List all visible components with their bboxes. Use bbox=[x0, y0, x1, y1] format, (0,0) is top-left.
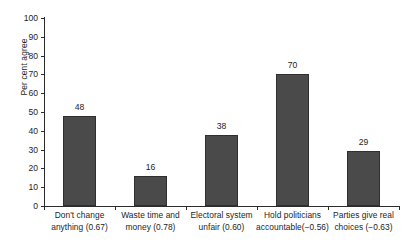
y-axis-tick-label: 50 bbox=[14, 108, 38, 117]
y-axis-tick-label: 0 bbox=[14, 202, 38, 211]
x-axis-category-label-line: Hold politicians bbox=[255, 210, 330, 222]
y-axis-tick-label: 60 bbox=[14, 89, 38, 98]
x-axis-category-label-line: Don't change bbox=[42, 210, 117, 222]
y-axis-tick-label: 10 bbox=[14, 183, 38, 192]
bar bbox=[134, 176, 167, 206]
x-axis-category-label-line: choices (−0.63) bbox=[326, 222, 401, 234]
bar bbox=[205, 135, 238, 206]
y-axis-tick-label: 90 bbox=[14, 33, 38, 42]
bar bbox=[276, 74, 309, 206]
y-axis-tick-mark bbox=[41, 131, 45, 132]
x-axis-category-label: Don't changeanything (0.67) bbox=[42, 210, 117, 233]
y-axis-tick-mark bbox=[41, 112, 45, 113]
bar-value-label: 16 bbox=[131, 163, 171, 172]
x-axis-category-label: Parties give realchoices (−0.63) bbox=[326, 210, 401, 233]
y-axis-tick-label: 70 bbox=[14, 70, 38, 79]
bar bbox=[347, 151, 380, 206]
x-axis-category-label-line: money (0.78) bbox=[113, 222, 188, 234]
y-axis-tick-mark bbox=[41, 150, 45, 151]
x-axis-category-labels: Don't changeanything (0.67)Waste time an… bbox=[44, 210, 404, 244]
x-axis-category-label: Electoral systemunfair (0.60) bbox=[184, 210, 259, 233]
y-axis-tick-label: 100 bbox=[14, 14, 38, 23]
y-axis-tick-labels: 0102030405060708090100 bbox=[14, 0, 38, 248]
y-axis-tick-label: 20 bbox=[14, 164, 38, 173]
x-axis-category-label-line: Parties give real bbox=[326, 210, 401, 222]
y-axis-tick-mark bbox=[41, 187, 45, 188]
x-axis-category-label-line: Electoral system bbox=[184, 210, 259, 222]
y-axis-tick-mark bbox=[41, 168, 45, 169]
bar-value-label: 29 bbox=[344, 138, 384, 147]
y-axis-tick-mark bbox=[41, 18, 45, 19]
x-axis-line bbox=[44, 206, 400, 207]
x-axis-category-label-line: anything (0.67) bbox=[42, 222, 117, 234]
bar-value-label: 48 bbox=[60, 103, 100, 112]
y-axis-tick-mark bbox=[41, 93, 45, 94]
y-axis-tick-mark bbox=[41, 37, 45, 38]
bar-value-label: 38 bbox=[202, 122, 242, 131]
y-axis-tick-label: 80 bbox=[14, 51, 38, 60]
bar bbox=[63, 116, 96, 206]
plot-area: 4816387029 bbox=[44, 18, 399, 206]
x-axis-category-label-line: unfair (0.60) bbox=[184, 222, 259, 234]
bar-chart: Per cent agree 0102030405060708090100 48… bbox=[0, 0, 411, 248]
x-axis-category-label: Waste time andmoney (0.78) bbox=[113, 210, 188, 233]
x-axis-category-label-line: accountable(−0.56) bbox=[255, 222, 330, 234]
x-axis-category-label-line: Waste time and bbox=[113, 210, 188, 222]
y-axis-tick-mark bbox=[41, 74, 45, 75]
bar-value-label: 70 bbox=[273, 61, 313, 70]
y-axis-tick-label: 30 bbox=[14, 145, 38, 154]
x-axis-category-label: Hold politiciansaccountable(−0.56) bbox=[255, 210, 330, 233]
y-axis-tick-label: 40 bbox=[14, 127, 38, 136]
y-axis-tick-mark bbox=[41, 56, 45, 57]
